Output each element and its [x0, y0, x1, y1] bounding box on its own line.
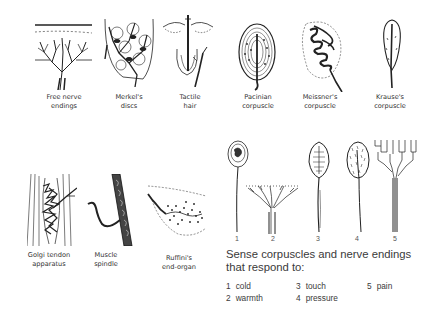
label-line: end-organ [162, 263, 196, 272]
legend-label: touch [306, 281, 326, 291]
label-tactile-hair: Tactile hair [180, 93, 201, 110]
label-line: Ruffini's [162, 254, 196, 263]
pacinian-corpuscle-drawing [237, 20, 277, 92]
label-line: apparatus [28, 260, 70, 269]
golgi-tendon-apparatus-drawing [27, 174, 77, 246]
meissners-corpuscle-drawing [300, 20, 346, 92]
receptor-5-pain-drawing [372, 138, 418, 232]
label-line: spindle [94, 260, 118, 269]
muscle-spindle-drawing [86, 174, 136, 246]
legend-label: pain [377, 281, 393, 291]
label-golgi-tendon-apparatus: Golgi tendon apparatus [28, 251, 70, 268]
legend-label: warmth [236, 293, 263, 303]
legend-item-1: 1cold [226, 280, 251, 292]
receptor-number-1: 1 [235, 235, 239, 242]
receptor-4-pressure-drawing [345, 140, 371, 232]
label-krauses-corpuscle: Krause's corpuscle [374, 93, 406, 110]
receptor-number-2: 2 [271, 235, 275, 242]
merkels-discs-drawing [103, 15, 155, 87]
label-line: endings [47, 102, 82, 111]
label-line: Free nerve [47, 93, 82, 102]
label-meissners-corpuscle: Meissner's corpuscle [303, 93, 338, 110]
label-line: Pacinian [242, 93, 274, 102]
label-line: Golgi tendon [28, 251, 70, 260]
label-line: discs [115, 102, 142, 111]
caption: Sense corpuscles and nerve endings that … [226, 248, 411, 273]
label-line: corpuscle [242, 102, 274, 111]
legend-item-4: 4pressure [296, 292, 338, 304]
legend-number: 4 [296, 293, 301, 303]
label-pacinian-corpuscle: Pacinian corpuscle [242, 93, 274, 110]
ruffinis-end-organ-drawing [146, 184, 208, 240]
receptor-number-4: 4 [355, 235, 359, 242]
caption-line-2: that respond to: [226, 261, 411, 274]
krauses-corpuscle-drawing [380, 18, 404, 90]
legend-number: 5 [367, 281, 372, 291]
receptor-2-warmth-drawing [244, 182, 302, 234]
label-line: Krause's [374, 93, 406, 102]
legend-item-3: 3touch [296, 280, 326, 292]
label-line: corpuscle [303, 102, 338, 111]
legend-number: 1 [226, 281, 231, 291]
receptor-number-5: 5 [393, 235, 397, 242]
legend-label: pressure [306, 293, 338, 303]
label-line: Tactile [180, 93, 201, 102]
label-muscle-spindle: Muscle spindle [94, 251, 118, 268]
receptor-3-touch-drawing [307, 140, 331, 232]
caption-line-1: Sense corpuscles and nerve endings [226, 248, 411, 261]
label-line: corpuscle [374, 102, 406, 111]
tactile-hair-drawing [163, 15, 213, 87]
receptor-number-3: 3 [316, 235, 320, 242]
legend-label: cold [236, 281, 251, 291]
legend-number: 2 [226, 293, 231, 303]
label-line: hair [180, 102, 201, 111]
label-merkels-discs: Merkel's discs [115, 93, 142, 110]
legend-number: 3 [296, 281, 301, 291]
legend-item-5: 5pain [367, 280, 392, 292]
legend-item-2: 2warmth [226, 292, 263, 304]
label-line: Merkel's [115, 93, 142, 102]
free-nerve-endings-drawing [32, 22, 94, 90]
label-ruffinis-end-organ: Ruffini's end-organ [162, 254, 196, 271]
label-free-nerve-endings: Free nerve endings [47, 93, 82, 110]
label-line: Meissner's [303, 93, 338, 102]
label-line: Muscle [94, 251, 118, 260]
